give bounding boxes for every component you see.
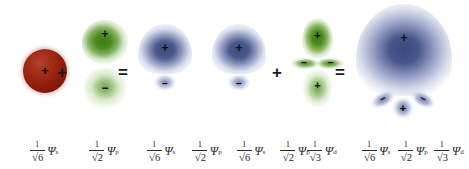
formula-result-d: 13Ψd	[428, 140, 469, 163]
result-lobe-center-positive	[392, 97, 414, 119]
psi-subscript: s	[56, 148, 59, 156]
fraction-denominator: 2	[282, 151, 294, 164]
square-root-radicand: 2	[282, 152, 294, 164]
square-root-radicand: 2	[194, 152, 206, 164]
psi-symbol: Ψ	[47, 144, 55, 159]
fraction-numerator: 1	[35, 140, 39, 150]
fraction-numerator: 1	[404, 140, 408, 150]
fraction-numerator: 1	[440, 140, 444, 150]
psi-symbol: Ψ	[379, 144, 387, 159]
d-orbital: + − − +	[290, 0, 344, 120]
psi-symbol: Ψ	[325, 144, 333, 159]
psi-subscript: p	[218, 148, 222, 156]
d-orbital-lobe-bottom-positive	[303, 70, 332, 108]
fraction-numerator: 1	[198, 140, 202, 150]
hybrid-2-lobe-negative	[228, 74, 250, 91]
p-orbital: + −	[78, 0, 130, 120]
psi-symbol: Ψ	[452, 144, 460, 159]
formula-hybrid1-p: 12Ψp	[184, 140, 230, 163]
p-orbital-lobe-positive	[82, 20, 128, 64]
fraction-numerator: 1	[95, 140, 99, 150]
psi-subscript: p	[115, 148, 119, 156]
operator-equals-2: =	[332, 64, 348, 81]
formula-d: 13Ψd	[296, 140, 348, 163]
hybrid-orbital-2: + −	[210, 0, 268, 120]
fraction: 16	[147, 140, 162, 163]
fraction-denominator: 2	[91, 151, 103, 164]
square-root-radicand: 2	[91, 152, 103, 164]
d-orbital-lobe-ring-left	[290, 58, 318, 69]
hybrid-orbital-1: + −	[136, 0, 194, 120]
psi-subscript: d	[460, 148, 464, 156]
fraction: 16	[30, 140, 45, 163]
formula-hybrid2-s: 16Ψs	[228, 140, 274, 163]
fraction-numerator: 1	[286, 140, 290, 150]
operator-plus-1: +	[54, 64, 70, 81]
fraction: 12	[192, 140, 207, 163]
d-orbital-lobe-top-positive	[302, 18, 333, 58]
hybrid-1-lobe-negative	[154, 74, 176, 91]
fraction: 12	[280, 140, 295, 163]
fraction-denominator: 3	[309, 151, 321, 164]
hybrid-2-lobe-positive	[212, 24, 266, 74]
square-root-radicand: 3	[436, 152, 448, 164]
fraction: 12	[398, 140, 413, 163]
psi-subscript: d	[333, 148, 337, 156]
square-root-radicand: 6	[238, 152, 250, 164]
fraction: 12	[89, 140, 104, 163]
psi-symbol: Ψ	[164, 144, 172, 159]
psi-symbol: Ψ	[107, 144, 115, 159]
fraction-numerator: 1	[152, 140, 156, 150]
fraction-denominator: 2	[400, 151, 412, 164]
formula-s: 16Ψs	[18, 140, 70, 163]
fraction-denominator: 6	[363, 151, 375, 164]
square-root-radicand: 6	[148, 152, 160, 164]
fraction-numerator: 1	[367, 140, 371, 150]
square-root-radicand: 6	[31, 152, 43, 164]
square-root-radicand: 6	[363, 152, 375, 164]
psi-symbol: Ψ	[254, 144, 262, 159]
hybrid-orbital-result: + − + −	[352, 0, 456, 125]
fraction-numerator: 1	[313, 140, 317, 150]
square-root-radicand: 2	[400, 152, 412, 164]
hybrid-1-lobe-positive	[138, 24, 192, 74]
formula-result-s: 16Ψs	[355, 140, 397, 163]
fraction: 16	[237, 140, 252, 163]
fraction-denominator: 2	[194, 151, 206, 164]
fraction: 13	[307, 140, 322, 163]
operator-plus-2: +	[269, 64, 285, 81]
fraction: 16	[362, 140, 377, 163]
psi-symbol: Ψ	[416, 144, 424, 159]
psi-subscript: s	[388, 148, 391, 156]
formula-hybrid1-s: 16Ψs	[138, 140, 184, 163]
psi-subscript: s	[263, 148, 266, 156]
fraction-denominator: 3	[436, 151, 448, 164]
square-root-radicand: 3	[309, 152, 321, 164]
fraction-denominator: 6	[31, 151, 43, 164]
psi-symbol: Ψ	[210, 144, 218, 159]
formula-p: 12Ψp	[78, 140, 130, 163]
fraction-denominator: 6	[238, 151, 250, 164]
result-lobe-main-positive	[356, 4, 452, 96]
operator-equals-1: =	[115, 64, 131, 81]
psi-subscript: s	[173, 148, 176, 156]
fraction-denominator: 6	[148, 151, 160, 164]
fraction: 13	[434, 140, 449, 163]
fraction-numerator: 1	[242, 140, 246, 150]
s-orbital: +	[18, 0, 70, 120]
